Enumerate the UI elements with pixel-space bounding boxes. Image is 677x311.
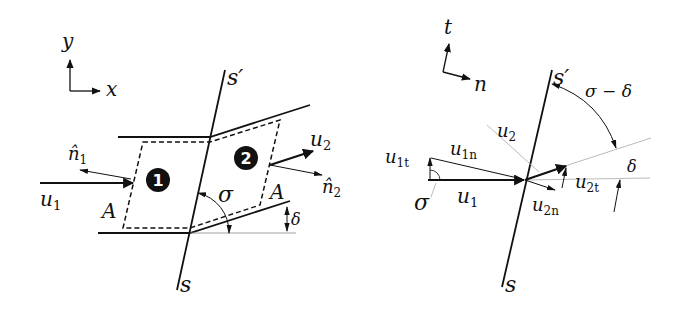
u2n-vector	[525, 180, 555, 190]
u2-vector	[525, 166, 566, 180]
horizontal-reference-line	[525, 178, 650, 180]
sigma-label: σ	[414, 190, 430, 215]
u1-label: u1	[457, 184, 478, 210]
u2t-vector	[562, 168, 566, 188]
delta-label: δ	[291, 210, 301, 229]
u1-label: u1	[40, 187, 61, 213]
u2-vector	[270, 151, 313, 165]
delta-label: δ	[627, 157, 637, 176]
tn-axes-icon: t n	[443, 15, 487, 96]
n2-normal-vector	[270, 165, 322, 175]
u1n-label: u1n	[450, 138, 477, 162]
sigma-small-arc	[430, 170, 440, 180]
svg-text:2: 2	[240, 149, 251, 168]
u2t-label: u2t	[575, 171, 599, 195]
area-label-upstream: A	[100, 199, 116, 223]
sigma-label: σ	[218, 182, 234, 207]
shock-line	[177, 70, 225, 290]
delta-angle-indicator	[614, 180, 620, 212]
right-panel: t n s′ s u1 u1t u1n σ u2 u2n u2t	[385, 15, 651, 297]
region-2-marker: 2	[234, 146, 258, 170]
n-axis-label: n	[474, 72, 487, 96]
x-axis-label: x	[106, 77, 117, 101]
u2n-label: u2n	[532, 194, 559, 218]
sigma-leader-line	[431, 183, 436, 197]
t-axis-label: t	[444, 15, 453, 39]
u1t-label: u1t	[385, 146, 409, 170]
oblique-shock-diagram: y x s′ s u1 n̂1 1 2 u2	[0, 0, 677, 311]
shock-bottom-label: s	[180, 272, 191, 297]
svg-text:1: 1	[152, 171, 163, 190]
n1-normal-vector	[80, 170, 131, 179]
u2-label: u2	[497, 120, 516, 144]
left-panel: y x s′ s u1 n̂1 1 2 u2	[40, 29, 341, 297]
sigma-minus-delta-label: σ − δ	[585, 81, 632, 101]
u2-label: u2	[310, 127, 331, 153]
xy-axes-icon: y x	[61, 29, 117, 101]
area-label-downstream: A	[268, 180, 284, 204]
n1-label: n̂1	[68, 143, 87, 167]
n2-label: n̂2	[322, 176, 341, 200]
shock-top-label: s′	[227, 65, 243, 90]
deflected-flow-line	[565, 138, 651, 166]
y-axis-label: y	[61, 29, 74, 53]
shock-bottom-label: s	[505, 272, 516, 297]
shock-top-label: s′	[553, 65, 569, 90]
region-1-marker: 1	[146, 168, 170, 192]
